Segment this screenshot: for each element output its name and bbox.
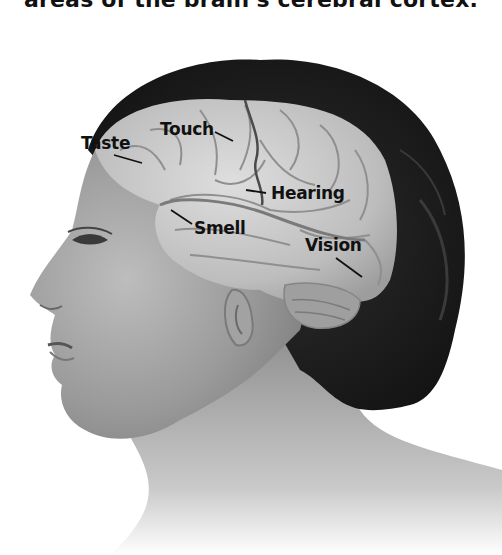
label-smell: Smell [194, 218, 246, 238]
label-touch: Touch [160, 119, 214, 139]
label-hearing: Hearing [271, 183, 345, 203]
label-vision: Vision [305, 235, 362, 255]
head-brain-illustration [0, 0, 502, 555]
label-taste: Taste [81, 133, 130, 153]
